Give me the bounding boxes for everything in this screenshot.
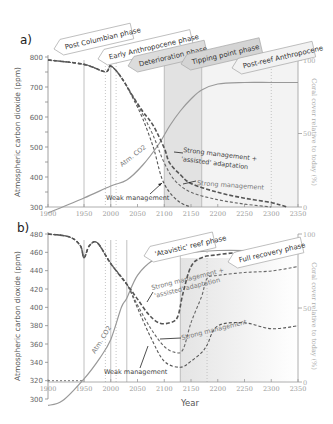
panel-a-y-axis-title: Atmospheric carbon dioxide (ppm) [13, 67, 22, 197]
panel-b-y-axis-title: Atmospheric carbon dioxide (ppm) [13, 251, 22, 381]
arrow-assisted-b [147, 292, 153, 302]
x-tick-label: 2050 [129, 385, 146, 393]
annotation-weak-a: Weak management [106, 194, 170, 202]
left-tick-label: 300 [30, 396, 43, 404]
left-tick-label: 700 [30, 84, 43, 92]
x-tick-label: 2050 [129, 210, 146, 218]
left-tick-label: 400 [30, 174, 43, 182]
x-tick-label: 2000 [102, 210, 119, 218]
right-tick-label: 0 [303, 204, 307, 212]
arrow-weak-b [140, 346, 148, 368]
x-tick-label: 1950 [76, 385, 93, 393]
left-tick-label: 380 [30, 322, 43, 330]
x-tick-label: 2100 [156, 210, 173, 218]
annotation-co2-b: Atm. CO2 [90, 324, 113, 355]
x-tick-label: 2200 [209, 385, 226, 393]
left-tick-label: 420 [30, 286, 43, 294]
x-tick-label: 2250 [236, 210, 253, 218]
x-tick-label: 2150 [183, 385, 200, 393]
x-tick-label: 2100 [156, 385, 173, 393]
x-axis-title: Year [180, 398, 200, 408]
coral-co2-figure: 3004005006007008001900195020002050210021… [0, 0, 333, 424]
left-tick-label: 500 [30, 144, 43, 152]
left-tick-label: 320 [30, 377, 43, 385]
x-tick-label: 2300 [263, 210, 280, 218]
x-tick-label: 2200 [209, 210, 226, 218]
left-tick-label: 600 [30, 114, 43, 122]
x-tick-label: 1950 [76, 210, 93, 218]
x-tick-label: 2250 [236, 385, 253, 393]
arrowhead-weak-a [158, 183, 162, 186]
x-tick-label: 2150 [183, 210, 200, 218]
x-tick-label: 2300 [263, 385, 280, 393]
left-tick-label: 480 [30, 231, 43, 239]
x-tick-label: 1900 [40, 385, 57, 393]
left-tick-label: 800 [30, 54, 43, 62]
arrow-strong-b [160, 338, 181, 339]
right-tick-label: 0 [303, 379, 307, 387]
annotation-weak-b: Weak management [104, 368, 168, 376]
left-tick-label: 440 [30, 267, 43, 275]
x-tick-label: 2000 [102, 385, 119, 393]
left-tick-label: 360 [30, 341, 43, 349]
left-tick-label: 400 [30, 304, 43, 312]
panel-a-right-axis-title: Coral cover relative to today (%) [310, 78, 318, 186]
panel-b-label: b) [17, 221, 29, 235]
panel-a-label: a) [20, 33, 32, 47]
panel-b-right-axis-title: Coral cover relative to today (%) [310, 262, 318, 370]
left-tick-label: 460 [30, 249, 43, 257]
right-tick-label: 100 [303, 231, 315, 239]
left-tick-label: 340 [30, 359, 43, 367]
